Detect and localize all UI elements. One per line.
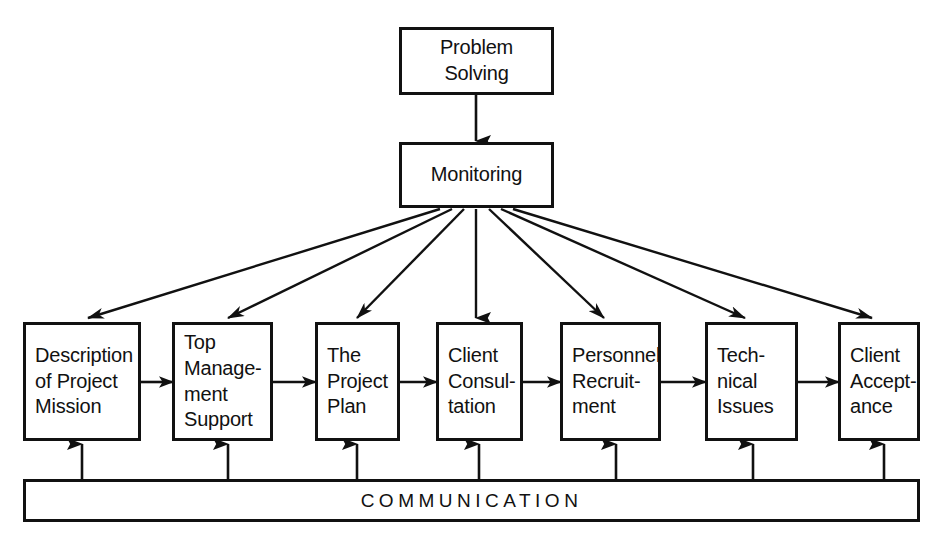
- node-label-line: of Project: [35, 369, 117, 395]
- fanout-line-5: [489, 209, 604, 318]
- node-label-line: The: [327, 343, 361, 369]
- node-label-line: Problem: [440, 35, 513, 61]
- node-label-line: ance: [850, 394, 893, 420]
- node-label-line: Manage-: [184, 356, 262, 382]
- node-label-line: nical: [717, 369, 757, 395]
- connector-monitoring-fanout: [88, 209, 872, 318]
- node-technical-issues[interactable]: Tech- nical Issues: [705, 322, 798, 441]
- node-label-line: ment: [572, 394, 616, 420]
- node-monitoring[interactable]: Monitoring: [399, 142, 554, 208]
- node-label-line: Solving: [444, 61, 508, 87]
- fanout-line-7: [513, 209, 872, 318]
- node-label-line: Monitoring: [431, 162, 522, 188]
- node-label-line: Tech-: [717, 343, 765, 369]
- fanout-line-3: [357, 209, 464, 318]
- node-label-line: Personnel: [572, 343, 660, 369]
- node-label-line: Accept-: [850, 369, 916, 395]
- node-personnel-recruitment[interactable]: Personnel Recruit- ment: [560, 322, 661, 441]
- node-label-line: Project: [327, 369, 388, 395]
- node-problem-solving[interactable]: Problem Solving: [399, 27, 554, 95]
- node-label-line: Support: [184, 407, 253, 433]
- node-label-line: Top: [184, 330, 216, 356]
- communication-label: COMMUNICATION: [361, 490, 583, 512]
- node-client-acceptance[interactable]: Client Accept- ance: [838, 322, 920, 441]
- fanout-line-6: [501, 209, 745, 318]
- node-label-line: Client: [850, 343, 900, 369]
- node-label-line: Issues: [717, 394, 774, 420]
- node-label-line: Client: [448, 343, 498, 369]
- node-the-project-plan[interactable]: The Project Plan: [315, 322, 400, 441]
- node-client-consultation[interactable]: Client Consul- tation: [436, 322, 523, 441]
- communication-bar[interactable]: COMMUNICATION: [23, 479, 920, 522]
- diagram-canvas: Problem Solving Monitoring Description o…: [0, 0, 930, 542]
- node-label-line: Plan: [327, 394, 366, 420]
- node-label-line: tation: [448, 394, 496, 420]
- node-label-line: Recruit-: [572, 369, 640, 395]
- node-label-line: Consul-: [448, 369, 516, 395]
- node-label-line: Description: [35, 343, 133, 369]
- node-top-management-support[interactable]: Top Manage- ment Support: [172, 322, 273, 441]
- node-label-line: Mission: [35, 394, 101, 420]
- connector-communication-feeds: [82, 444, 884, 479]
- node-description-of-project-mission[interactable]: Description of Project Mission: [23, 322, 141, 441]
- node-label-line: ment: [184, 382, 228, 408]
